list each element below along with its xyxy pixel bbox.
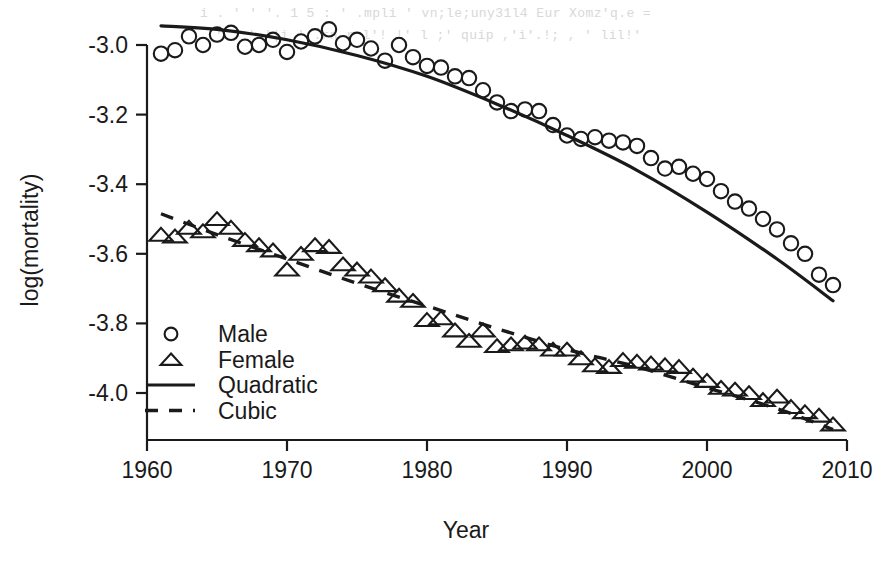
data-point	[168, 43, 182, 57]
data-point	[714, 184, 728, 198]
data-point	[149, 228, 172, 241]
data-point	[252, 38, 266, 52]
x-tick-label: 2000	[681, 457, 732, 483]
data-point	[420, 59, 434, 73]
data-point	[275, 263, 298, 276]
y-tick-label: -3.6	[88, 241, 128, 267]
data-point	[280, 45, 294, 59]
data-point	[630, 139, 644, 153]
x-axis: 196019701980199020002010	[121, 440, 872, 483]
x-tick-label: 1990	[541, 457, 592, 483]
data-point	[686, 167, 700, 181]
fit-curve-quadratic	[161, 26, 833, 301]
x-axis-title: Year	[443, 517, 490, 543]
y-tick-label: -3.2	[88, 102, 128, 128]
mortality-trend-figure: i . ' ' '. 1 5 : ' .mpli ' vn;le;uny31l4…	[0, 0, 885, 570]
y-tick-label: -3.8	[88, 310, 128, 336]
data-point	[308, 29, 322, 43]
data-point	[392, 38, 406, 52]
data-point	[658, 161, 672, 175]
data-point	[238, 40, 252, 54]
data-point	[700, 172, 714, 186]
data-point	[443, 324, 466, 337]
data-point	[476, 83, 490, 97]
x-tick-label: 2010	[821, 457, 872, 483]
data-point	[350, 33, 364, 47]
data-point	[672, 160, 686, 174]
data-point	[434, 60, 448, 74]
chart-canvas: -3.0-3.2-3.4-3.6-3.8-4.0 196019701980199…	[0, 0, 885, 570]
data-point	[602, 134, 616, 148]
x-tick-label: 1980	[401, 457, 452, 483]
data-point	[406, 50, 420, 64]
data-point	[588, 130, 602, 144]
data-point	[462, 71, 476, 85]
data-point	[205, 212, 228, 225]
legend-label-female: Female	[218, 347, 295, 373]
legend-label-quadratic: Quadratic	[218, 372, 318, 398]
y-axis: -3.0-3.2-3.4-3.6-3.8-4.0	[88, 32, 147, 440]
y-tick-label: -4.0	[88, 380, 128, 406]
data-point	[429, 311, 452, 324]
data-point	[303, 238, 326, 251]
data-point	[196, 38, 210, 52]
legend-label-cubic: Cubic	[218, 398, 277, 424]
data-point	[219, 221, 242, 234]
data-point	[770, 222, 784, 236]
data-point	[289, 247, 312, 260]
y-tick-label: -3.0	[88, 32, 128, 58]
y-axis-title: log(mortality)	[17, 174, 43, 307]
data-point	[728, 194, 742, 208]
data-point	[826, 278, 840, 292]
data-point	[182, 29, 196, 43]
data-point	[518, 102, 532, 116]
data-point	[336, 36, 350, 50]
data-point	[616, 135, 630, 149]
data-point	[266, 33, 280, 47]
data-point	[756, 212, 770, 226]
data-point	[742, 201, 756, 215]
x-tick-label: 1960	[121, 457, 172, 483]
data-point	[532, 104, 546, 118]
data-point	[322, 22, 336, 36]
data-point	[448, 69, 462, 83]
x-tick-label: 1970	[261, 457, 312, 483]
data-point	[364, 41, 378, 55]
data-point	[784, 236, 798, 250]
legend-symbol-circle	[165, 328, 178, 341]
legend-symbol-triangle	[161, 353, 182, 364]
data-point	[644, 151, 658, 165]
data-point	[154, 47, 168, 61]
chart-legend: MaleFemaleQuadraticCubic	[145, 321, 318, 424]
legend-label-male: Male	[218, 321, 268, 347]
data-point	[812, 267, 826, 281]
data-point	[798, 247, 812, 261]
y-tick-label: -3.4	[88, 171, 128, 197]
